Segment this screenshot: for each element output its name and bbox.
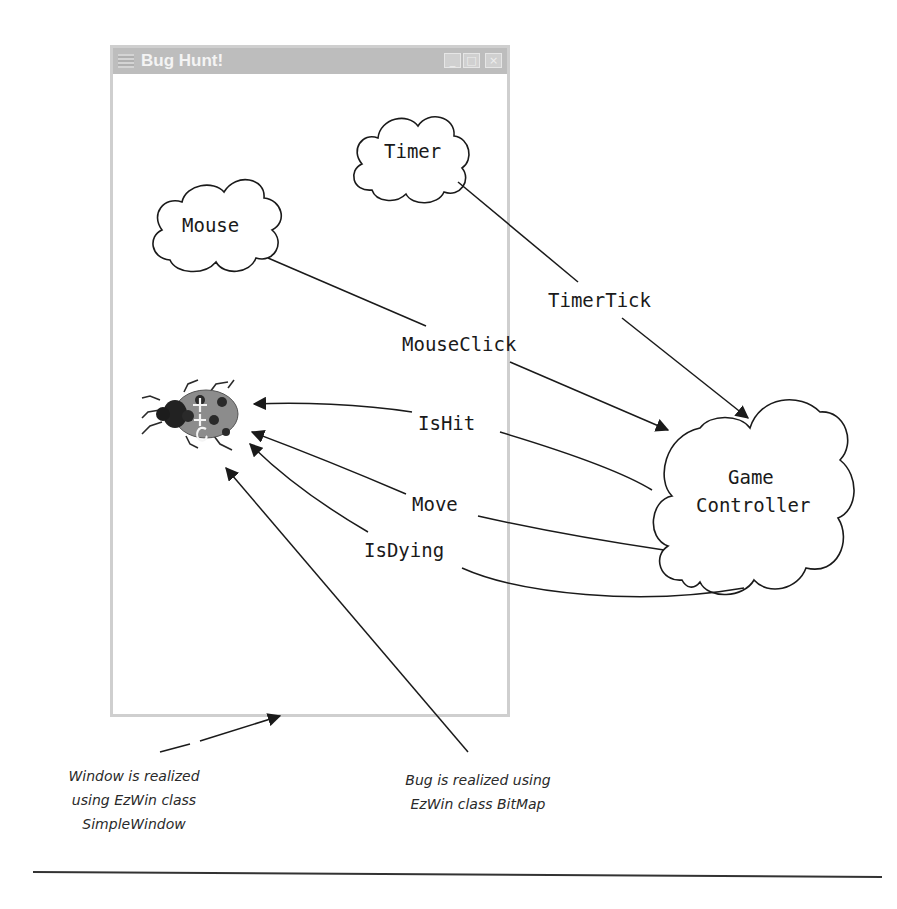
bottom-rule [33, 872, 882, 877]
timer-label: Timer [384, 140, 441, 162]
bug-annotation: Bug is realized using EzWin class BitMap [378, 768, 578, 816]
window-annotation-line: SimpleWindow [40, 812, 228, 836]
window-annotation: Window is realized using EzWin class Sim… [40, 764, 228, 836]
is-hit-message: IsHit [418, 412, 475, 434]
window-annotation-line: using EzWin class [40, 788, 228, 812]
mouse-label: Mouse [182, 214, 239, 236]
timer-tick-message: TimerTick [548, 289, 651, 311]
diagram-canvas: Bug Hunt! _ □ × [0, 0, 897, 909]
is-dying-message: IsDying [364, 539, 444, 561]
window-annotation-line: Window is realized [40, 764, 228, 788]
move-message: Move [412, 493, 458, 515]
ladybug-icon [142, 380, 238, 450]
controller-label: Controller [696, 494, 810, 516]
bug-annotation-line: Bug is realized using [378, 768, 578, 792]
game-label: Game [728, 466, 774, 488]
bug-annotation-line: EzWin class BitMap [378, 792, 578, 816]
mouse-click-message: MouseClick [402, 333, 516, 355]
